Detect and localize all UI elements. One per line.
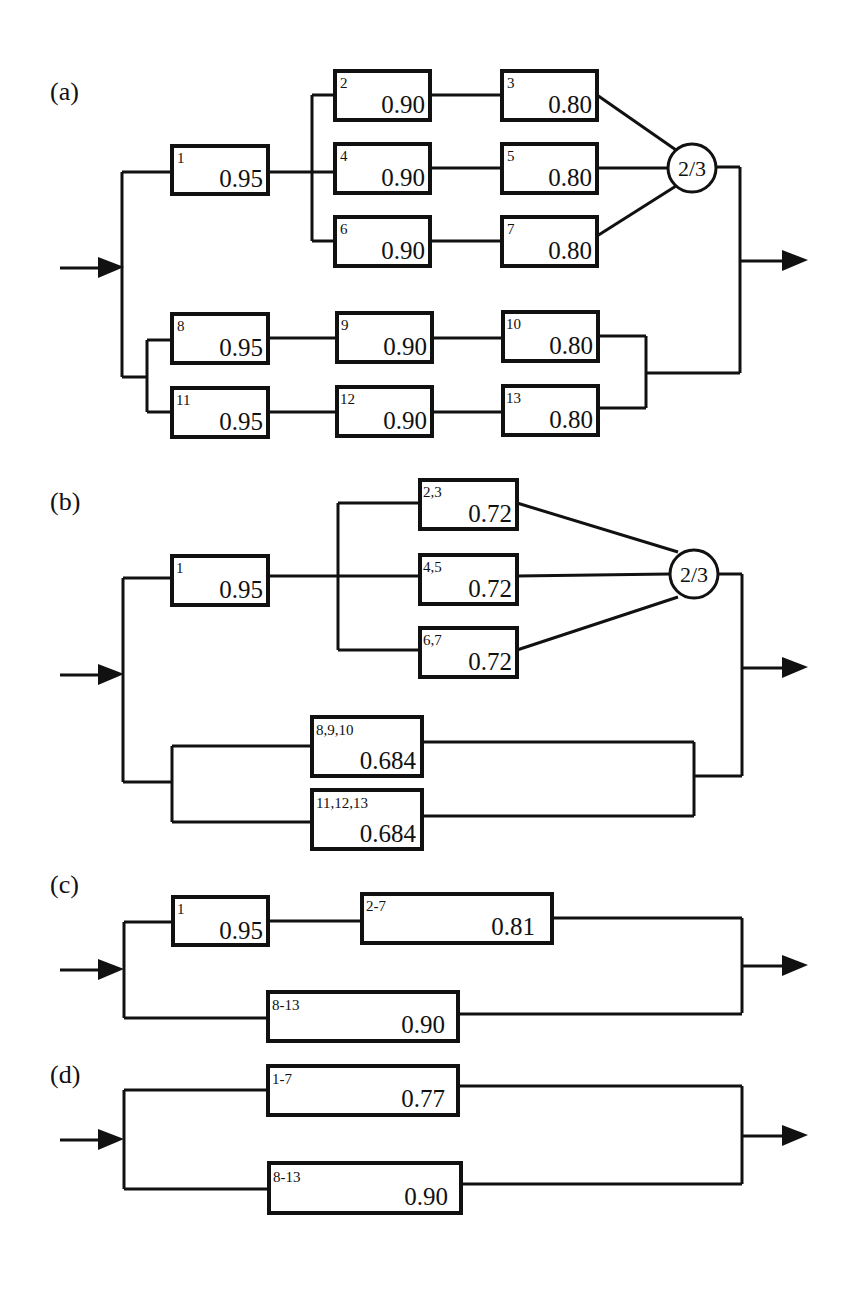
- block-8-13: 8-13 0.90: [269, 1163, 461, 1213]
- svg-text:0.684: 0.684: [360, 820, 417, 847]
- voter-2-of-3: 2/3: [668, 144, 716, 192]
- svg-text:4,5: 4,5: [423, 559, 442, 575]
- svg-text:8: 8: [177, 318, 185, 334]
- svg-text:7: 7: [507, 221, 515, 237]
- svg-text:2,3: 2,3: [423, 484, 442, 500]
- reliability-block-diagrams: (a): [0, 0, 852, 1290]
- svg-text:6: 6: [340, 221, 348, 237]
- svg-text:1: 1: [177, 150, 185, 166]
- block-5: 5 0.80: [502, 144, 597, 193]
- panel-b: (b) 1 0.95 2,3 0.72: [50, 480, 808, 849]
- svg-text:0.90: 0.90: [381, 91, 425, 118]
- block-1: 1 0.95: [173, 897, 268, 945]
- svg-text:0.90: 0.90: [381, 164, 425, 191]
- svg-text:1: 1: [176, 560, 184, 576]
- block-2-7: 2-7 0.81: [362, 894, 552, 943]
- svg-text:13: 13: [506, 390, 521, 406]
- block-9: 9 0.90: [337, 313, 432, 362]
- svg-text:6,7: 6,7: [423, 632, 442, 648]
- svg-text:0.90: 0.90: [383, 333, 427, 360]
- block-6: 6 0.90: [335, 217, 430, 266]
- block-11-12-13: 11,12,13 0.684: [312, 790, 422, 849]
- svg-text:2: 2: [340, 75, 348, 91]
- input-arrow-icon: [98, 664, 124, 685]
- svg-text:0.72: 0.72: [468, 500, 512, 527]
- block-2: 2 0.90: [335, 71, 430, 120]
- block-3: 3 0.80: [502, 71, 597, 120]
- block-8-13: 8-13 0.90: [268, 992, 458, 1041]
- block-13: 13 0.80: [503, 386, 598, 435]
- svg-text:0.80: 0.80: [548, 237, 592, 264]
- panel-a-label: (a): [50, 77, 79, 106]
- svg-text:3: 3: [507, 75, 515, 91]
- output-arrow-icon: [782, 250, 808, 271]
- svg-text:11,12,13: 11,12,13: [316, 795, 368, 811]
- svg-text:8,9,10: 8,9,10: [316, 722, 354, 738]
- panel-b-label: (b): [50, 487, 80, 516]
- svg-text:11: 11: [176, 392, 190, 408]
- svg-text:0.80: 0.80: [549, 406, 593, 433]
- block-10: 10 0.80: [503, 312, 598, 361]
- block-7: 7 0.80: [502, 217, 597, 266]
- block-4: 4 0.90: [335, 144, 430, 193]
- svg-text:0.90: 0.90: [401, 1011, 445, 1038]
- svg-text:0.90: 0.90: [381, 237, 425, 264]
- panel-c: (c) 1 0.95 2-7 0.81 8-13 0.90: [50, 870, 808, 1041]
- input-arrow-icon: [98, 959, 124, 980]
- svg-text:9: 9: [341, 317, 349, 333]
- svg-text:8-13: 8-13: [272, 997, 300, 1013]
- svg-text:0.95: 0.95: [219, 165, 263, 192]
- svg-text:4: 4: [340, 148, 348, 164]
- block-4-5: 4,5 0.72: [420, 555, 517, 604]
- block-8: 8 0.95: [172, 314, 268, 363]
- svg-text:0.80: 0.80: [548, 91, 592, 118]
- svg-text:2/3: 2/3: [680, 562, 708, 587]
- block-11: 11 0.95: [172, 388, 268, 437]
- panel-d-label: (d): [50, 1060, 80, 1089]
- svg-text:0.90: 0.90: [383, 407, 427, 434]
- block-1-7: 1-7 0.77: [268, 1066, 458, 1115]
- block-8-9-10: 8,9,10 0.684: [312, 717, 422, 776]
- svg-text:0.80: 0.80: [548, 164, 592, 191]
- svg-text:0.95: 0.95: [219, 334, 263, 361]
- svg-text:0.77: 0.77: [401, 1085, 445, 1112]
- input-arrow-icon: [98, 257, 124, 278]
- svg-text:2-7: 2-7: [366, 898, 386, 914]
- svg-text:5: 5: [507, 148, 515, 164]
- output-arrow-icon: [782, 1125, 808, 1146]
- svg-text:0.72: 0.72: [468, 648, 512, 675]
- svg-text:8-13: 8-13: [273, 1169, 301, 1185]
- svg-text:0.72: 0.72: [468, 575, 512, 602]
- block-1: 1 0.95: [172, 146, 268, 194]
- svg-text:0.80: 0.80: [549, 332, 593, 359]
- block-2-3: 2,3 0.72: [420, 480, 517, 529]
- output-arrow-icon: [782, 657, 808, 678]
- svg-text:10: 10: [506, 316, 521, 332]
- svg-text:1-7: 1-7: [272, 1071, 292, 1087]
- svg-text:2/3: 2/3: [678, 156, 706, 181]
- svg-text:0.95: 0.95: [219, 917, 263, 944]
- block-6-7: 6,7 0.72: [420, 628, 517, 677]
- svg-text:0.684: 0.684: [360, 747, 417, 774]
- svg-text:0.90: 0.90: [404, 1183, 448, 1210]
- panel-c-label: (c): [50, 870, 79, 899]
- output-arrow-icon: [782, 955, 808, 976]
- svg-text:0.81: 0.81: [491, 913, 535, 940]
- panel-d: (d) 1-7 0.77 8-13 0.90: [50, 1060, 808, 1213]
- input-arrow-icon: [98, 1129, 124, 1150]
- block-12: 12 0.90: [337, 387, 432, 436]
- voter-2-of-3: 2/3: [670, 550, 718, 598]
- block-1: 1 0.95: [172, 556, 268, 605]
- svg-text:0.95: 0.95: [219, 408, 263, 435]
- svg-text:0.95: 0.95: [219, 576, 263, 603]
- panel-a: (a): [50, 71, 808, 437]
- svg-text:12: 12: [340, 391, 355, 407]
- svg-text:1: 1: [177, 901, 185, 917]
